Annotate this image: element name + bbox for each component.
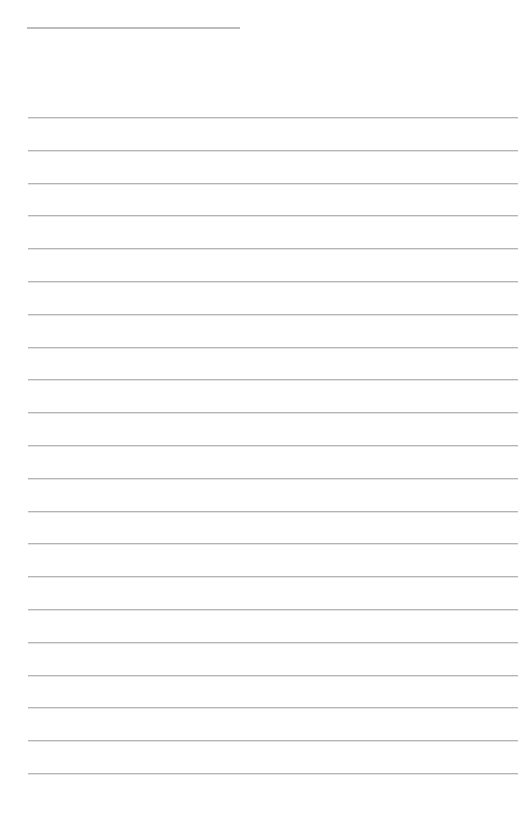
ruled-line: [28, 314, 518, 315]
ruled-line: [28, 609, 518, 610]
ruled-line: [28, 248, 518, 249]
ruled-line: [28, 642, 518, 643]
ruled-line: [28, 543, 518, 544]
lined-paper-page: [0, 0, 525, 820]
ruled-line: [28, 576, 518, 577]
ruled-line: [28, 379, 518, 380]
ruled-line: [28, 215, 518, 216]
ruled-line: [28, 511, 518, 512]
ruled-line: [28, 445, 518, 446]
ruled-line: [28, 675, 518, 676]
ruled-line: [28, 281, 518, 282]
ruled-line: [28, 707, 518, 708]
ruled-line: [28, 412, 518, 413]
ruled-line: [28, 347, 518, 348]
ruled-line: [28, 150, 518, 151]
ruled-line: [28, 740, 518, 741]
ruled-line: [28, 773, 518, 774]
ruled-line: [28, 183, 518, 184]
ruled-line: [28, 117, 518, 118]
ruled-line: [28, 478, 518, 479]
header-name-line: [27, 27, 240, 29]
